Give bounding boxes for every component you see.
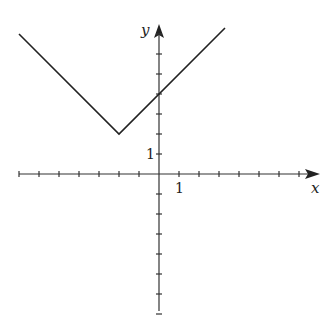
graph-canvas: x y 1 1 xyxy=(0,0,335,321)
axes xyxy=(19,32,312,311)
x-axis-label: x xyxy=(311,179,320,197)
y-tick-label-1: 1 xyxy=(146,146,155,162)
y-axis-label: y xyxy=(140,21,150,39)
function-curve xyxy=(19,28,225,134)
x-tick-label-1: 1 xyxy=(175,180,184,196)
